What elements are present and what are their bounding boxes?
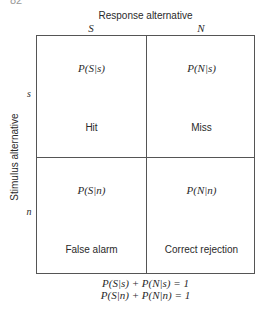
- row-label-n: n: [25, 206, 33, 217]
- page-number: 82: [10, 0, 22, 6]
- equation-signal: P(S|s) + P(N|s) = 1: [36, 277, 255, 289]
- cell-probability: P(S|n): [37, 184, 146, 196]
- column-label-S: S: [36, 22, 146, 34]
- outcome-matrix: P(S|s) Hit P(N|s) Miss P(S|n) False alar…: [36, 35, 255, 274]
- cell-outcome-label: Correct rejection: [147, 244, 256, 255]
- equation-noise: P(S|n) + P(N|n) = 1: [36, 289, 255, 301]
- equations: P(S|s) + P(N|s) = 1 P(S|n) + P(N|n) = 1: [36, 277, 255, 301]
- row-label-s: s: [25, 88, 33, 99]
- cell-miss: P(N|s) Miss: [147, 36, 256, 156]
- cell-false-alarm: P(S|n) False alarm: [37, 158, 146, 278]
- cell-probability: P(N|s): [147, 62, 256, 74]
- cell-probability: P(S|s): [37, 62, 146, 74]
- cell-correct-rejection: P(N|n) Correct rejection: [147, 158, 256, 278]
- column-label-N: N: [146, 22, 256, 34]
- cell-outcome-label: False alarm: [37, 244, 146, 255]
- cell-probability: P(N|n): [147, 184, 256, 196]
- stimulus-axis-title: Stimulus alternative: [9, 113, 20, 200]
- cell-hit: P(S|s) Hit: [37, 36, 146, 156]
- cell-outcome-label: Hit: [37, 122, 146, 133]
- cell-outcome-label: Miss: [147, 122, 256, 133]
- response-axis-title: Response alternative: [36, 10, 255, 21]
